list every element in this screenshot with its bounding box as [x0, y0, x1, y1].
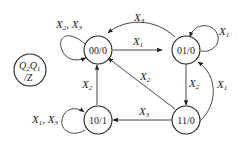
label-11-to-00: X2 [139, 70, 151, 84]
label-loop-01: X1 [218, 25, 229, 39]
label-loop-10: X1, X3 [31, 113, 58, 127]
label-00-to-01: X1 [132, 35, 143, 49]
state-01: 01/0 [172, 36, 200, 64]
label-01-to-11: X2 [188, 77, 200, 91]
svg-text:10/1: 10/1 [89, 115, 107, 126]
legend: Q2Q1 /Z [14, 54, 46, 86]
label-11-to-10: X3 [138, 105, 150, 119]
label-loop-00: X2, X3 [55, 18, 82, 32]
legend-line2: /Z [23, 72, 33, 83]
edge-11-to-01 [198, 62, 213, 121]
label-11-to-01: X1 [216, 78, 227, 92]
edge-loop-10 [62, 109, 85, 134]
label-10-to-00: X2 [81, 78, 93, 92]
svg-text:01/0: 01/0 [177, 45, 195, 56]
label-01-to-00: X3 [133, 11, 145, 25]
edge-11-to-00 [108, 58, 175, 109]
state-diagram: Q2Q1 /Z X2, X3 X1 X3 X1 X2 X1 X2 X3 X2 X… [0, 0, 242, 149]
state-11: 11/0 [172, 106, 200, 134]
svg-text:11/0: 11/0 [177, 115, 194, 126]
svg-text:00/0: 00/0 [89, 45, 107, 56]
state-10: 10/1 [84, 106, 112, 134]
state-00: 00/0 [84, 36, 112, 64]
